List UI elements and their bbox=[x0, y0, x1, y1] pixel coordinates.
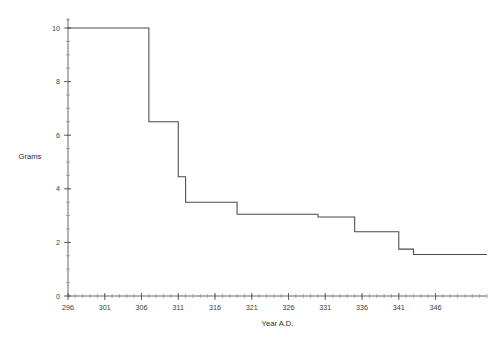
x-tick-label: 301 bbox=[99, 303, 111, 312]
step-chart: 0246810 29630130631131632132633133634134… bbox=[0, 0, 500, 340]
x-tick-label: 311 bbox=[173, 303, 184, 312]
y-tick-label: 2 bbox=[56, 238, 60, 247]
x-tick-label: 326 bbox=[283, 303, 295, 312]
x-axis-group: 296301306311316321326331336341346 bbox=[62, 293, 487, 312]
step-series-line bbox=[68, 28, 487, 254]
x-tick-label: 346 bbox=[430, 303, 442, 312]
y-tick-labels: 0246810 bbox=[52, 24, 60, 301]
x-tick-label: 296 bbox=[62, 303, 74, 312]
x-tick-label: 316 bbox=[209, 303, 221, 312]
x-major-ticks bbox=[68, 293, 436, 300]
x-tick-label: 336 bbox=[356, 303, 368, 312]
y-axis-group: 0246810 bbox=[52, 18, 71, 301]
x-axis-title: Year A.D. bbox=[262, 319, 294, 328]
x-tick-label: 341 bbox=[393, 303, 405, 312]
y-tick-label: 8 bbox=[56, 77, 60, 86]
y-tick-label: 0 bbox=[56, 292, 60, 301]
x-tick-label: 306 bbox=[136, 303, 148, 312]
x-tick-labels: 296301306311316321326331336341346 bbox=[62, 303, 442, 312]
y-tick-label: 6 bbox=[56, 131, 60, 140]
y-tick-label: 4 bbox=[56, 184, 60, 193]
chart-canvas: 0246810 29630130631131632132633133634134… bbox=[0, 0, 500, 340]
x-tick-label: 331 bbox=[319, 303, 331, 312]
x-tick-label: 321 bbox=[246, 303, 258, 312]
y-tick-label: 10 bbox=[52, 24, 60, 33]
y-axis-title: Grams bbox=[19, 152, 42, 161]
